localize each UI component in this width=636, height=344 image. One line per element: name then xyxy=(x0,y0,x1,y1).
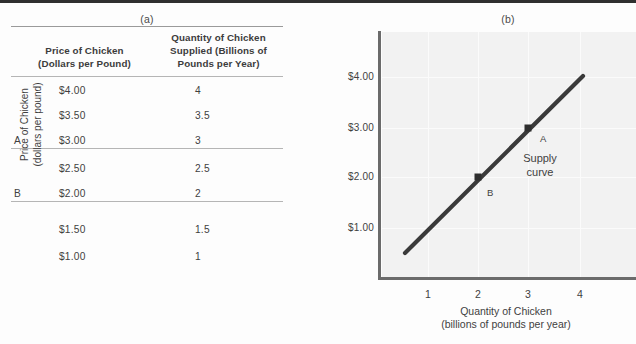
table-rule-after-a xyxy=(11,148,283,149)
table-rule-after-b xyxy=(11,201,283,202)
y-axis-line xyxy=(378,31,381,279)
point-b-label: B xyxy=(487,187,493,198)
table-header-rule xyxy=(11,76,283,77)
x-tick-label: 1 xyxy=(418,288,438,300)
table-row-price: $2.00 xyxy=(59,188,86,199)
table-header-quantity-line1: Quantity of Chicken xyxy=(152,31,285,44)
table-header-quantity: Quantity of Chicken Supplied (Billions o… xyxy=(152,31,285,70)
supply-curve-label-line1: Supply xyxy=(503,152,577,166)
table-header-quantity-line3: Pounds per Year) xyxy=(152,57,285,70)
x-axis-label-line2: (billions of pounds per year) xyxy=(380,318,632,331)
y-tick-label: $1.00 xyxy=(330,222,374,233)
x-axis-label-line1: Quantity of Chicken xyxy=(380,305,632,318)
table-row-quantity: 3.5 xyxy=(195,110,210,121)
x-tick-label: 4 xyxy=(570,288,590,300)
y-axis-label-line1: Price of Chicken xyxy=(19,65,32,185)
point-a-label: A xyxy=(540,133,546,144)
table-row-price: $1.00 xyxy=(59,251,86,262)
y-tick-label: $2.00 xyxy=(330,171,374,182)
gridline-horizontal xyxy=(382,128,636,129)
table-row-price: $1.50 xyxy=(59,224,86,235)
panel-b-caption: (b) xyxy=(380,13,636,25)
gridline-horizontal xyxy=(382,77,636,78)
y-tick-label: $3.00 xyxy=(330,122,374,133)
supply-curve-label: Supply curve xyxy=(503,152,577,179)
y-tick-label: $4.00 xyxy=(330,71,374,82)
x-tick-label: 2 xyxy=(468,288,488,300)
table-row-quantity: 2.5 xyxy=(195,163,210,174)
x-axis-line xyxy=(378,277,636,280)
table-header-quantity-line2: Supplied (Billions of xyxy=(152,44,285,57)
table-row-quantity: 2 xyxy=(195,188,201,199)
x-tick-label: 3 xyxy=(518,288,538,300)
table-row-price: $2.50 xyxy=(59,163,86,174)
figure-root: (a) Price of Chicken (Dollars per Pound)… xyxy=(0,0,636,344)
gridline-horizontal xyxy=(382,228,636,229)
table-row-quantity: 4 xyxy=(195,85,201,96)
table-row-tag-b: B xyxy=(14,188,21,199)
table-top-rule xyxy=(11,26,283,27)
y-axis-label-line2: (dollars per pound) xyxy=(31,65,44,185)
table-row-quantity: 3 xyxy=(195,135,201,146)
gridline-vertical xyxy=(478,32,479,278)
table-header-price-line1: Price of Chicken xyxy=(18,44,151,57)
table-row-quantity: 1 xyxy=(195,251,201,262)
gridline-vertical xyxy=(580,32,581,278)
top-border-bar xyxy=(0,0,636,3)
x-axis-label: Quantity of Chicken (billions of pounds … xyxy=(380,305,632,331)
table-row-price: $4.00 xyxy=(59,85,86,96)
y-axis-label: Price of Chicken (dollars per pound) xyxy=(19,65,44,185)
gridline-vertical xyxy=(428,32,429,278)
table-row-price: $3.00 xyxy=(59,135,86,146)
supply-curve-label-line2: curve xyxy=(503,166,577,180)
panel-a-caption: (a) xyxy=(0,13,294,25)
table-row-quantity: 1.5 xyxy=(195,224,210,235)
table-row-price: $3.50 xyxy=(59,110,86,121)
